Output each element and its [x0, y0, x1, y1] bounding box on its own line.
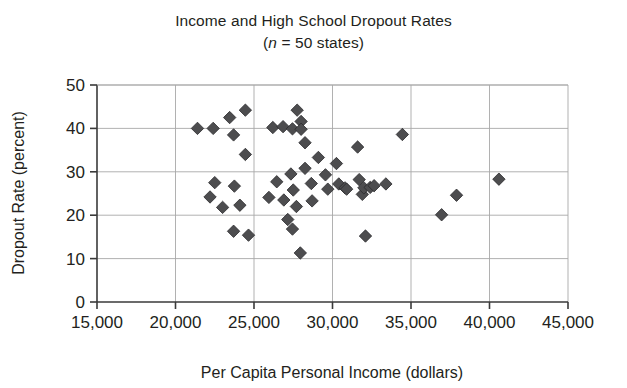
data-point-marker — [351, 141, 363, 153]
x-tick-label: 30,000 — [307, 313, 359, 332]
y-tick-label: 0 — [76, 293, 85, 312]
data-point-marker — [294, 247, 306, 259]
y-tick-label: 50 — [66, 76, 85, 95]
data-point-marker — [234, 199, 246, 211]
y-tick-label: 10 — [66, 250, 85, 269]
data-point-marker — [239, 104, 251, 116]
x-tick-label: 35,000 — [385, 313, 437, 332]
x-tick-label: 45,000 — [542, 313, 594, 332]
tick-layer — [90, 85, 568, 309]
x-tick-label: 15,000 — [71, 313, 123, 332]
data-point-marker — [435, 209, 447, 221]
data-point-marker — [450, 189, 462, 201]
data-point-marker — [239, 148, 251, 160]
x-axis-title: Per Capita Personal Income (dollars) — [201, 364, 463, 381]
x-tick-label: 40,000 — [464, 313, 516, 332]
y-tick-label: 40 — [66, 119, 85, 138]
data-point-marker — [299, 162, 311, 174]
data-point-marker — [227, 129, 239, 141]
y-tick-label: 30 — [66, 163, 85, 182]
data-point-marker — [263, 191, 275, 203]
data-point-marker — [493, 173, 505, 185]
data-point-marker — [278, 194, 290, 206]
data-point-marker — [290, 200, 302, 212]
x-tick-label: 20,000 — [150, 313, 202, 332]
data-point-layer — [191, 104, 505, 259]
data-point-marker — [291, 104, 303, 116]
data-point-marker — [228, 180, 240, 192]
data-point-marker — [271, 176, 283, 188]
data-point-marker — [277, 120, 289, 132]
axis-tick-labels: 15,00020,00025,00030,00035,00040,00045,0… — [66, 76, 594, 332]
y-axis-title: Dropout Rate (percent) — [10, 111, 27, 275]
data-point-marker — [287, 184, 299, 196]
grid-layer — [97, 85, 568, 302]
data-point-marker — [209, 176, 221, 188]
data-point-marker — [396, 128, 408, 140]
data-point-marker — [359, 230, 371, 242]
data-point-marker — [285, 168, 297, 180]
data-point-marker — [380, 178, 392, 190]
y-tick-label: 20 — [66, 206, 85, 225]
data-point-marker — [299, 137, 311, 149]
scatter-plot-figure: Income and High School Dropout Rates (n … — [0, 0, 627, 388]
data-point-marker — [305, 177, 317, 189]
data-point-marker — [312, 151, 324, 163]
data-point-marker — [227, 225, 239, 237]
data-point-marker — [204, 191, 216, 203]
x-tick-label: 25,000 — [228, 313, 280, 332]
data-point-marker — [242, 229, 254, 241]
plot-canvas: 15,00020,00025,00030,00035,00040,00045,0… — [0, 0, 627, 388]
data-point-marker — [223, 111, 235, 123]
data-point-marker — [319, 169, 331, 181]
data-point-marker — [207, 122, 219, 134]
data-point-marker — [191, 122, 203, 134]
data-point-marker — [295, 123, 307, 135]
data-point-marker — [216, 201, 228, 213]
data-point-marker — [306, 195, 318, 207]
